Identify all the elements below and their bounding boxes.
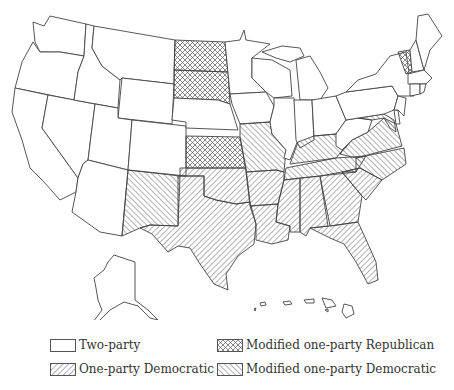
swatch-crosshatch-icon [217, 339, 243, 352]
swatch-slash-hatch-icon [217, 363, 243, 376]
state-ks [186, 136, 246, 168]
state-fl [310, 222, 378, 284]
legend-label: Modified one-party Republican [246, 338, 434, 352]
state-co [128, 120, 186, 176]
state-nd [174, 40, 228, 72]
legend-item-two-party: Two-party [50, 338, 140, 352]
state-ak [90, 255, 158, 320]
state-ri [420, 84, 426, 94]
state-ar [246, 170, 284, 206]
swatch-backslash-hatch-icon [50, 363, 76, 376]
state-pa [336, 86, 398, 120]
legend-item-mod-rep: Modified one-party Republican [217, 338, 434, 352]
legend: Two-party Modified one-party Republican … [0, 338, 454, 390]
state-ia [230, 92, 274, 124]
state-az [72, 160, 128, 236]
legend-label: One-party Democratic [79, 362, 214, 376]
state-ct [410, 84, 420, 96]
state-de [394, 110, 400, 124]
swatch-blank-icon [50, 339, 76, 352]
state-hi [254, 298, 354, 318]
state-mi [296, 56, 328, 100]
legend-item-one-party-dem: One-party Democratic [50, 362, 214, 376]
legend-item-mod-dem: Modified one-party Democratic [217, 362, 436, 376]
state-wa [33, 16, 86, 56]
legend-label: Two-party [79, 338, 140, 352]
state-wy [118, 78, 174, 124]
legend-label: Modified one-party Democratic [246, 362, 436, 376]
us-map [0, 0, 454, 320]
